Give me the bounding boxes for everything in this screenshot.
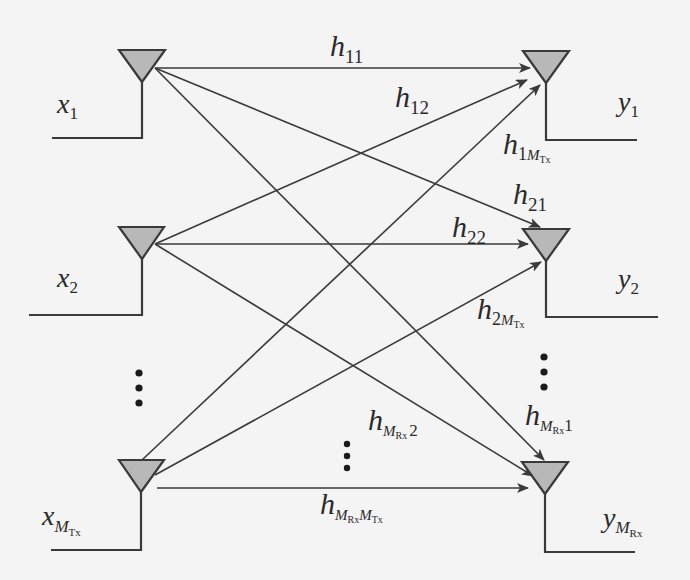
channel-label-h2M: h2MTx [477, 292, 525, 330]
rx-label-2: y2 [615, 263, 639, 298]
link-hM2 [155, 244, 533, 476]
channel-label-h22: h22 [452, 210, 486, 248]
tx-label-M: xMTx [41, 500, 81, 538]
channel-label-h1M: h1MTx [503, 127, 551, 165]
antenna-icon [523, 229, 569, 261]
tx-antenna-2 [29, 227, 164, 315]
link-h12 [155, 80, 527, 244]
antenna-icon [119, 50, 165, 82]
channel-label-h12: h12 [395, 80, 429, 118]
rx-ellipsis-icon [540, 353, 547, 390]
mimo-channel-diagram: x1 x2 xMTx y1 y2 yMRx h11 h12 h1MTx h21 … [0, 0, 690, 580]
rx-antenna-2 [523, 229, 658, 317]
channel-label-h21: h21 [513, 177, 547, 215]
channel-label-h11: h11 [330, 29, 363, 67]
antenna-icon [523, 51, 569, 83]
tx-ellipsis-icon [135, 369, 142, 406]
channel-label-hM1: hMRx1 [525, 398, 573, 436]
link-h21 [155, 68, 540, 227]
rx-antenna-M [522, 462, 635, 552]
channel-ellipsis-icon [344, 441, 350, 471]
channel-links [142, 68, 544, 488]
rx-label-1: y1 [615, 86, 639, 121]
rx-label-M: yMRx [600, 502, 643, 539]
tx-label-1: x1 [56, 88, 78, 123]
antenna-icon [522, 462, 568, 494]
channel-label-hM2: hMRx2 [368, 403, 418, 441]
tx-label-2: x2 [56, 262, 78, 297]
channel-label-hMM: hMRxMTx [320, 487, 383, 525]
